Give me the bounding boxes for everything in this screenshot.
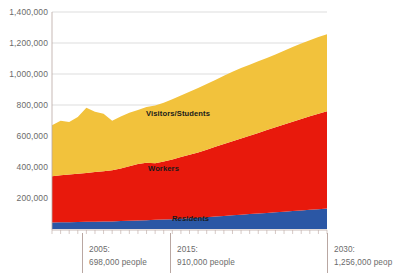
annotation-divider-2005 [82,233,83,273]
annotation-total-2015: 910,000 people [177,258,235,267]
series-label-residents: Residents [172,214,209,223]
annotation-total-2005: 698,000 people [89,258,147,267]
annotation-divider-2030 [327,233,328,273]
series-label-workers: Workers [148,164,179,173]
annotation-year-2015: 2015: [177,245,198,254]
stacked-area-chart: 1,400,000 1,200,000 1,000,000 800,000 60… [0,0,394,275]
series-label-visitors-students: Visitors/Students [146,109,210,118]
annotation-total-2030: 1,256,000 peop [334,258,392,267]
annotation-year-2030: 2030: [334,245,355,254]
x-axis-ticks [52,230,327,234]
annotation-divider-2015 [170,233,171,273]
plot-area [0,0,394,275]
area-series-group [52,34,327,229]
annotation-year-2005: 2005: [89,245,110,254]
